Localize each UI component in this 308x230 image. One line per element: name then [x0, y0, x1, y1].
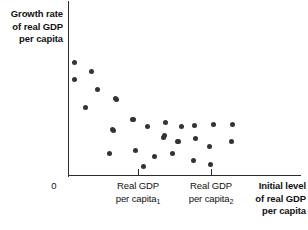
- data-point: [114, 97, 119, 102]
- data-point: [145, 124, 150, 129]
- x-axis-title-line-2: of real GDP: [230, 193, 306, 206]
- data-point: [131, 117, 136, 122]
- y-axis-label-line-3: per capita: [0, 33, 63, 46]
- data-point: [141, 164, 146, 169]
- data-point: [110, 127, 115, 132]
- data-point: [170, 151, 175, 156]
- data-point: [207, 144, 212, 149]
- x-tick-label-2-text: per capita: [189, 193, 230, 204]
- x-axis-title: Initial level of real GDP per capita: [230, 180, 306, 218]
- x-tick-label-1-text: per capita: [116, 193, 157, 204]
- x-tick-label-1-line-2: per capita1: [105, 193, 171, 207]
- y-axis-label-line-2: of real GDP: [0, 21, 63, 34]
- data-point: [72, 77, 77, 82]
- data-point: [211, 122, 216, 127]
- data-point: [191, 158, 196, 163]
- data-point: [179, 124, 184, 129]
- x-tick-label-1: Real GDP per capita1: [105, 180, 171, 206]
- data-point: [95, 87, 100, 92]
- data-point: [83, 105, 88, 110]
- x-tick-label-1-line-1: Real GDP: [105, 180, 171, 193]
- data-point: [193, 136, 198, 141]
- data-point: [162, 133, 167, 138]
- y-axis-line: [68, 1, 69, 177]
- x-axis-tick-1: [138, 169, 139, 176]
- data-point: [163, 120, 168, 125]
- origin-label: 0: [47, 180, 61, 191]
- x-tick-label-1-subscript: 1: [156, 198, 160, 205]
- data-point: [230, 122, 235, 127]
- data-point: [72, 60, 77, 65]
- scatter-plot-figure: Growth rate of real GDP per capita 0 Rea…: [0, 0, 308, 230]
- data-point: [107, 151, 112, 156]
- data-point: [133, 148, 138, 153]
- data-point: [208, 162, 213, 167]
- data-point: [176, 139, 181, 144]
- data-point: [89, 69, 94, 74]
- data-point: [229, 139, 234, 144]
- y-axis-label-line-1: Growth rate: [0, 8, 63, 21]
- data-point: [192, 123, 197, 128]
- x-axis-line: [68, 175, 301, 176]
- x-axis-title-line-1: Initial level: [230, 180, 306, 193]
- data-point: [152, 154, 157, 159]
- x-axis-tick-2: [211, 169, 212, 176]
- y-axis-label: Growth rate of real GDP per capita: [0, 8, 63, 46]
- x-axis-title-line-3: per capita: [230, 205, 306, 218]
